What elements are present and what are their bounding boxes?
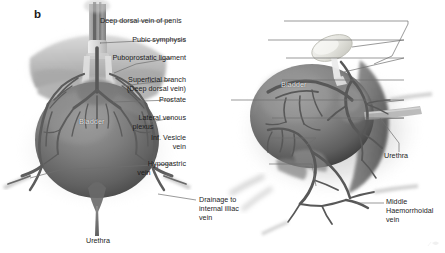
callout-urethra-left: Urethra (76, 237, 120, 246)
callout-prostate: Prostate (120, 96, 186, 105)
organ-label-bladder-right: Bladder (281, 80, 306, 89)
callout-inf-vesicle-vein-line2: vein (110, 143, 186, 152)
callout-deep-dorsal-vein-sub: (Deep dorsal vein) (96, 85, 186, 94)
callout-puboprostatic-ligament: Puboprostatic ligament (92, 54, 186, 63)
callout-lateral-venous-plexus-line2: plexus (104, 123, 182, 132)
callout-deep-dorsal-vein-of-penis: Deep dorsal vein of penis (100, 17, 174, 26)
callout-drainage-internal-illiac-line3: vein (199, 214, 285, 223)
callout-middle-haemorrhoidal-vein-line3: vein (386, 216, 444, 225)
organ-label-bladder-left: Bladder (79, 117, 104, 126)
anatomy-figure-panel-b: b Bladder Bladder Deep dorsal vein of pe… (0, 0, 445, 253)
panel-letter-b: b (34, 8, 41, 20)
callout-urethra-right: Urethra (384, 152, 436, 161)
callout-pubic-symphysis: Pubic symphysis (110, 36, 186, 45)
callout-hypogastric-vein-line2: vein (106, 169, 182, 178)
